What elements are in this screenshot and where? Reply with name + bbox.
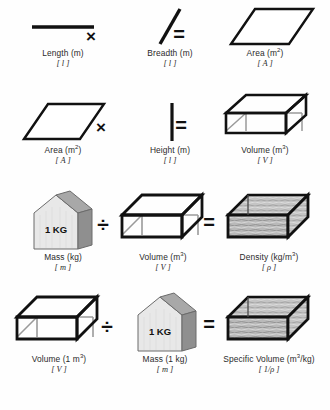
- result-specific-volume-label: Specific Volume (m3/kg): [208, 354, 330, 365]
- operand-length-symbol: [ l ]: [0, 59, 126, 70]
- operand-area-label: Area (m2): [0, 145, 126, 156]
- wireframe-box-icon: [200, 95, 330, 145]
- operand-mass-unit-label: Mass (1 kg): [112, 354, 218, 365]
- operand-volume-unit-label: Volume (1 m3): [0, 354, 118, 365]
- operator-equals: =: [168, 24, 190, 44]
- equation-row-mass-volume-density: 1 KG Mass (kg) [ m ] ÷: [0, 190, 330, 292]
- equation-row-length-breadth-area: Length (m) [ l ] × Breadth (m) [ l ] = A…: [0, 2, 330, 97]
- parallelogram-icon: [200, 2, 330, 48]
- operator-multiply: ×: [82, 28, 100, 45]
- operand-length: Length (m) [ l ]: [0, 2, 126, 69]
- result-area-label: Area (m2): [200, 48, 330, 59]
- equation-row-volume-mass-specific-volume: Volume (1 m3) [ V ] ÷: [0, 292, 330, 404]
- diagram-canvas: Length (m) [ l ] × Breadth (m) [ l ] = A…: [0, 0, 330, 410]
- result-specific-volume: Specific Volume (m3/kg) [ 1/ρ ]: [208, 292, 330, 375]
- equation-row-area-height-volume: Area (m2) [ A ] × Height (m) [ l ] =: [0, 95, 330, 190]
- filled-box-icon: [208, 190, 330, 252]
- operand-mass-unit-symbol: [ m ]: [112, 365, 218, 376]
- result-area: Area (m2) [ A ]: [200, 2, 330, 69]
- result-volume-symbol: [ V ]: [200, 156, 330, 167]
- operand-volume-label: Volume (m3): [108, 252, 218, 263]
- result-density-label: Density (kg/m3): [208, 252, 330, 263]
- operand-length-label: Length (m): [0, 48, 126, 59]
- result-volume: Volume (m3) [ V ]: [200, 95, 330, 166]
- result-specific-volume-symbol: [ 1/ρ ]: [208, 365, 330, 376]
- operator-multiply: ×: [92, 119, 110, 136]
- result-area-symbol: [ A ]: [200, 59, 330, 70]
- operand-volume-symbol: [ V ]: [108, 263, 218, 274]
- operator-equals: =: [170, 115, 192, 135]
- horizontal-line-icon: [0, 2, 126, 48]
- kg-block-text: 1 KG: [45, 224, 67, 235]
- result-density-symbol: [ ρ ]: [208, 263, 330, 274]
- operand-volume-unit-symbol: [ V ]: [0, 365, 118, 376]
- filled-box-icon: [208, 292, 330, 354]
- kg-block-text: 1 KG: [149, 326, 171, 337]
- result-density: Density (kg/m3) [ ρ ]: [208, 190, 330, 273]
- operand-area-symbol: [ A ]: [0, 156, 126, 167]
